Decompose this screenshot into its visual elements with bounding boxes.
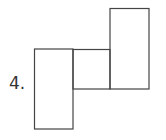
middle-square	[73, 50, 110, 90]
right-rectangle	[110, 9, 149, 90]
left-rectangle	[35, 49, 74, 129]
net-diagram	[0, 0, 166, 140]
